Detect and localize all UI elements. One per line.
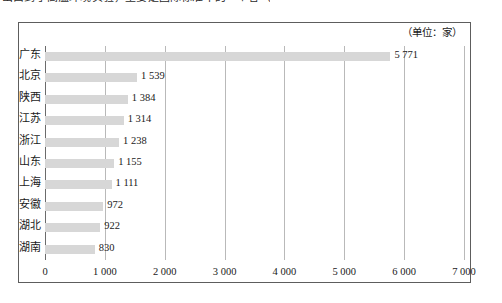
bar[interactable]	[45, 202, 103, 211]
x-axis: 01 0002 0003 0004 0005 0006 0007 000	[45, 264, 464, 280]
bar-row[interactable]: 湖南830	[45, 239, 464, 260]
x-tick-label: 4 000	[273, 264, 297, 280]
bar-row[interactable]: 陕西1 384	[45, 89, 464, 110]
category-label: 广东	[19, 47, 41, 62]
bar-row[interactable]: 北京1 539	[45, 67, 464, 88]
bar-value-label: 1 314	[128, 111, 152, 126]
category-label: 陕西	[19, 90, 41, 105]
gridline-7000	[464, 46, 465, 260]
bar[interactable]	[45, 73, 137, 82]
bar[interactable]	[45, 116, 124, 125]
bar[interactable]	[45, 138, 119, 147]
bar-value-label: 830	[99, 240, 115, 255]
category-label: 湖北	[19, 218, 41, 233]
bar-row[interactable]: 广东5 771	[45, 46, 464, 67]
x-tick-label: 3 000	[213, 264, 237, 280]
category-label: 江苏	[19, 111, 41, 126]
bar-value-label: 922	[104, 218, 120, 233]
chart-page: 出口到了高温环境实验，主要是国际标准中的一个省（省会城市）中。 （单位：家） 广…	[0, 0, 502, 303]
bar-value-label: 1 384	[132, 90, 156, 105]
plot-area: 广东5 771北京1 539陕西1 384江苏1 314浙江1 238山东1 1…	[45, 46, 464, 260]
x-tick-label: 1 000	[93, 264, 117, 280]
bar-row[interactable]: 湖北922	[45, 217, 464, 238]
bar-value-label: 1 155	[118, 154, 142, 169]
bar-value-label: 972	[107, 197, 123, 212]
bar-row[interactable]: 山东1 155	[45, 153, 464, 174]
x-tick-label: 6 000	[392, 264, 416, 280]
bar[interactable]	[45, 52, 390, 61]
bar-value-label: 1 111	[116, 175, 139, 190]
bar[interactable]	[45, 159, 114, 168]
chart-frame: （单位：家） 广东5 771北京1 539陕西1 384江苏1 314浙江1 2…	[18, 22, 471, 283]
category-label: 北京	[19, 68, 41, 83]
x-tick-label: 2 000	[153, 264, 177, 280]
x-tick-label: 7 000	[452, 264, 476, 280]
bar[interactable]	[45, 245, 95, 254]
category-label: 上海	[19, 175, 41, 190]
bar-value-label: 1 238	[123, 133, 147, 148]
bar-rows: 广东5 771北京1 539陕西1 384江苏1 314浙江1 238山东1 1…	[45, 46, 464, 260]
bar[interactable]	[45, 95, 128, 104]
bar-row[interactable]: 江苏1 314	[45, 110, 464, 131]
bar-value-label: 5 771	[394, 47, 418, 62]
bar-row[interactable]: 安徽972	[45, 196, 464, 217]
bar-value-label: 1 539	[141, 68, 165, 83]
category-label: 山东	[19, 154, 41, 169]
x-tick-label: 0	[42, 264, 47, 280]
category-label: 湖南	[19, 240, 41, 255]
x-tick-label: 5 000	[332, 264, 356, 280]
bar[interactable]	[45, 223, 100, 232]
bar-row[interactable]: 上海1 111	[45, 174, 464, 195]
category-label: 安徽	[19, 197, 41, 212]
category-label: 浙江	[19, 133, 41, 148]
unit-label: （单位：家）	[402, 26, 462, 40]
bar-row[interactable]: 浙江1 238	[45, 132, 464, 153]
bar[interactable]	[45, 180, 112, 189]
clipped-body-text: 出口到了高温环境实验，主要是国际标准中的一个省（省会城市）中。	[2, 0, 270, 4]
